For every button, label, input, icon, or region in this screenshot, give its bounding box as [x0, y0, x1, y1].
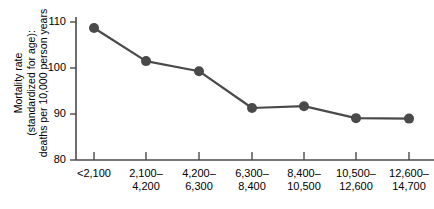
data-point-3 [194, 66, 204, 76]
y-tick-label-110: 110 [38, 15, 66, 27]
y-tick-label-100: 100 [38, 61, 66, 73]
data-point-5 [299, 101, 309, 111]
axes [70, 17, 434, 160]
y-tick-label-80: 80 [38, 153, 66, 165]
data-point-1 [89, 23, 99, 33]
x-tick-label-7-line-2: 14,700 [374, 180, 434, 193]
series-markers [89, 23, 414, 124]
data-point-7 [404, 114, 414, 124]
data-series-mortality [89, 23, 414, 124]
x-tick-label-7-line-1: 12,600– [374, 167, 434, 180]
data-point-4 [247, 103, 257, 113]
data-point-2 [141, 56, 151, 66]
chart-figure: Mortality rate (standardized for age): d… [0, 0, 434, 209]
data-point-6 [351, 113, 361, 123]
x-tick-label-7: 12,600– 14,700 [374, 167, 434, 193]
y-tick-label-90: 90 [38, 107, 66, 119]
